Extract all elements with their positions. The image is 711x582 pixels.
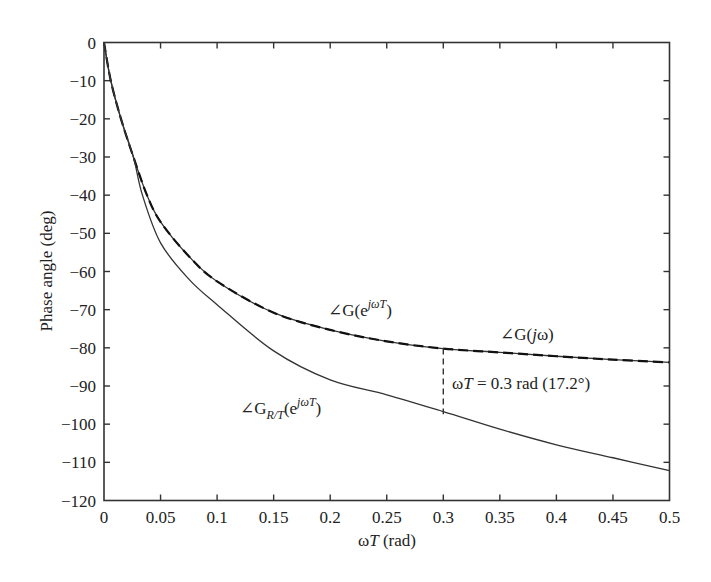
y-tick-label: −50 [69, 224, 96, 243]
x-tick-label: 0.15 [259, 508, 289, 527]
annotation-continuous-phase: ∠G(jω) [500, 325, 554, 344]
x-tick-label: 0 [100, 508, 109, 527]
y-tick-label: −40 [69, 186, 96, 205]
x-axis-title-unit: (rad) [379, 531, 416, 550]
annot-grt-close: ) [316, 399, 322, 418]
y-tick-label: −90 [69, 377, 96, 396]
annot-gz-base: ∠G(e [328, 301, 368, 320]
x-tick-label: 0.35 [485, 508, 515, 527]
y-tick-label: −110 [62, 453, 96, 472]
annot-grt-sup: jωT [295, 395, 317, 409]
phase-angle-chart: 00.050.10.150.20.250.30.350.40.450.50−10… [0, 0, 711, 582]
annotation-grt-phase: ∠GR/T(ejωT) [240, 395, 321, 422]
y-tick-label: −60 [69, 263, 96, 282]
annot-gz-sup: jωT [366, 297, 388, 311]
y-tick-label: −70 [69, 301, 96, 320]
annot-grt-sub: R/T [266, 408, 286, 422]
annot-grt-mid: (e [284, 399, 297, 418]
annot-wt-omega: ω [452, 374, 463, 393]
annot-grt-prefix: ∠G [240, 399, 267, 418]
annotation-discrete-phase: ∠G(ejωT) [328, 297, 392, 320]
annot-gjw-prefix: ∠G( [500, 325, 533, 344]
x-tick-label: 0.4 [546, 508, 568, 527]
x-tick-label: 0.25 [372, 508, 402, 527]
x-tick-label: 0.3 [433, 508, 454, 527]
x-tick-label: 0.2 [320, 508, 341, 527]
x-tick-label: 0.05 [146, 508, 176, 527]
annotation-omega-t: ωT = 0.3 rad (17.2°) [452, 374, 590, 393]
x-tick-label: 0.1 [206, 508, 227, 527]
curves [104, 43, 670, 471]
annot-wt-rest: = 0.3 rad (17.2°) [473, 374, 590, 393]
x-tick-label: 0.5 [659, 508, 680, 527]
x-axis-title-omega: ω [358, 531, 369, 550]
x-tick-label: 0.45 [598, 508, 628, 527]
y-tick-label: −80 [69, 339, 96, 358]
plot-frame [104, 43, 670, 501]
x-axis-title: ωT (rad) [358, 531, 416, 550]
y-tick-label: 0 [88, 34, 97, 53]
annot-gjw-rest: ω) [537, 325, 554, 344]
y-tick-label: −120 [61, 492, 96, 511]
annot-gz-close: ) [386, 301, 392, 320]
y-tick-label: −30 [69, 148, 96, 167]
y-axis-title: Phase angle (deg) [37, 211, 56, 332]
y-tick-label: −10 [69, 72, 96, 91]
y-tick-label: −20 [69, 110, 96, 129]
y-tick-label: −100 [61, 415, 96, 434]
